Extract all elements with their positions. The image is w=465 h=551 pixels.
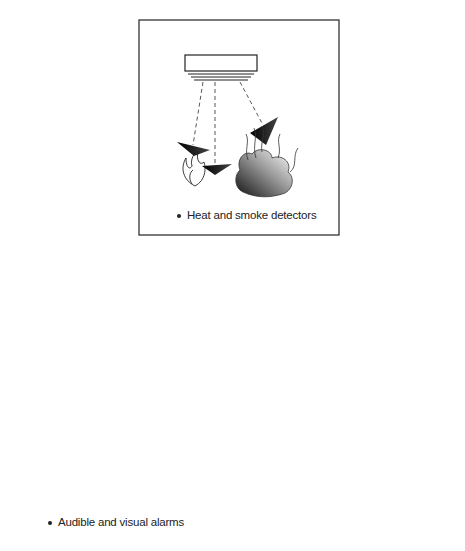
smoke-detector-icon xyxy=(185,55,257,80)
bottom-left-caption-text: Audible and visual alarms xyxy=(58,516,184,528)
bullet-icon xyxy=(48,521,52,525)
flame-outline-icon xyxy=(183,152,205,186)
top-caption-text: Heat and smoke detectors xyxy=(187,209,316,221)
top-box xyxy=(139,20,339,235)
detection-lines xyxy=(193,82,263,165)
bullet-icon xyxy=(177,214,181,218)
top-box-caption: Heat and smoke detectors xyxy=(177,209,316,221)
fire-system-diagram xyxy=(0,0,465,551)
bottom-left-caption: Audible and visual alarms xyxy=(48,516,184,528)
